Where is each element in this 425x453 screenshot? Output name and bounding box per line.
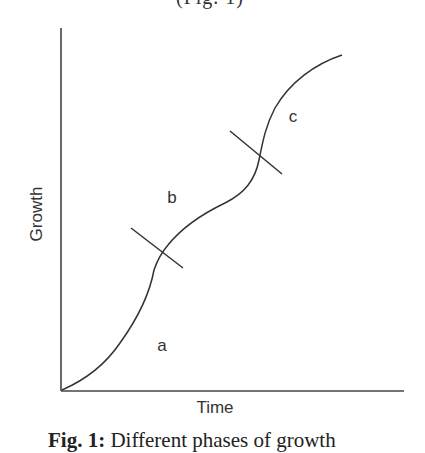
x-axis-label: Time	[180, 398, 250, 418]
caption-prefix: Fig. 1:	[48, 428, 105, 452]
phase-label-a: a	[157, 336, 166, 356]
caption-text: Different phases of growth	[105, 428, 336, 452]
growth-curve	[62, 55, 342, 390]
phase-label-c: c	[289, 107, 298, 127]
phase-divider-bc	[230, 131, 282, 174]
y-axis-label: Growth	[27, 187, 47, 242]
figure-caption: Fig. 1: Different phases of growth	[48, 428, 336, 453]
phase-label-b: b	[167, 188, 176, 208]
